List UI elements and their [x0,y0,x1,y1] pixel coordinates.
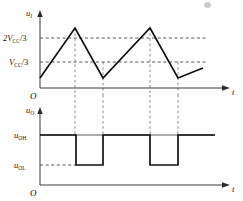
origin-label-top: O [30,91,37,101]
level-label-lower-threshold: VCC/3 [9,57,28,68]
x-axis-arrow-top [222,85,230,91]
level-label-output-high: uOH [14,130,26,141]
y-axis-arrow-top [37,10,42,17]
x-axis-arrow-bottom [222,182,230,188]
plot-output-voltage: uO uOH uOL O t [14,95,235,198]
y-axis-label-top: uI [26,8,33,19]
origin-label-bottom: O [30,188,37,198]
x-axis-label-top: t [232,87,235,97]
capacitor-voltage-waveform [40,28,203,78]
scan-speck-artifact [204,2,211,8]
figure-canvas: uI 2VCC/3 VCC/3 O t [0,0,243,201]
y-axis-label-bottom: uO [26,105,34,116]
level-label-output-low: uOL [14,160,26,171]
output-voltage-waveform [40,135,215,165]
waveform-diagram: uI 2VCC/3 VCC/3 O t [0,0,243,201]
plot-capacitor-voltage: uI 2VCC/3 VCC/3 O t [3,8,235,101]
y-axis-arrow-bottom [37,107,42,114]
x-axis-label-bottom: t [232,184,235,194]
level-label-upper-threshold: 2VCC/3 [3,33,27,44]
